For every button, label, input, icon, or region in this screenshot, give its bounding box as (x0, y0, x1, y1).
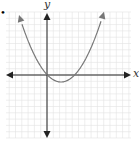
x-axis-label: x (133, 68, 139, 79)
parabola-curve (18, 12, 106, 82)
parabola-graph (0, 0, 139, 146)
y-axis-label: y (44, 0, 50, 10)
